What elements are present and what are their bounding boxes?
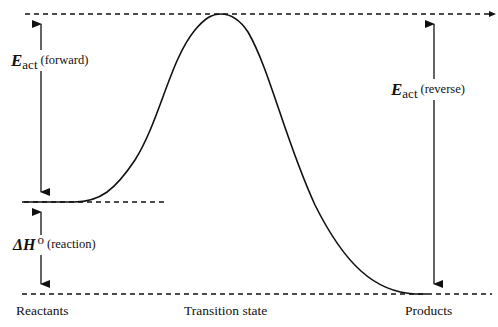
delta-h-superscript: o — [37, 232, 44, 247]
eact-forward-subscript: act — [22, 57, 37, 72]
eact-reverse-subscript: act — [402, 86, 417, 101]
delta-h-qualifier: (reaction) — [47, 237, 96, 251]
transition-state-label: Transition state — [184, 304, 267, 318]
eact-reverse-qualifier: (reverse) — [421, 82, 465, 96]
eact-reverse-label: Eact(reverse) — [391, 79, 465, 100]
reactants-label: Reactants — [16, 304, 68, 318]
eact-forward-symbol: E — [11, 51, 22, 70]
delta-h-label: ΔHo(reaction) — [13, 235, 96, 255]
delta-h-symbol: ΔH — [13, 236, 35, 253]
products-label: Products — [405, 304, 452, 318]
top-line-arrowhead — [489, 11, 496, 17]
eact-forward-qualifier: (forward) — [41, 53, 89, 67]
eact-reverse-symbol: E — [391, 80, 402, 99]
eact-forward-label: Eact(forward) — [11, 50, 88, 71]
